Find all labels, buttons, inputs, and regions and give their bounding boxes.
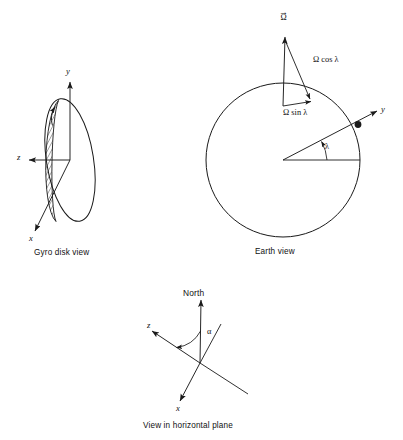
horiz-z-axis-continuation: [200, 363, 248, 394]
hatched-rim: [46, 101, 59, 222]
horizontal-plane-view-caption: View in horizontal plane: [143, 421, 233, 430]
earth-view-caption: Earth view: [255, 247, 295, 256]
omega-vector-label: → Ω: [279, 9, 288, 22]
earth-y-axis: [283, 111, 377, 160]
horiz-z-label: z: [147, 320, 150, 330]
observer-dot: [355, 121, 362, 128]
figure-canvas: [0, 0, 403, 440]
gyro-disk-view-group: [29, 82, 103, 231]
horizontal-plane-view-group: [152, 300, 248, 401]
gyro-y-label: y: [66, 66, 70, 76]
horiz-x-label: x: [176, 403, 180, 413]
earth-y-label: y: [381, 104, 385, 114]
horiz-x-axis: [180, 363, 200, 401]
gyro-x-axis: [35, 160, 70, 231]
earth-view-group: [206, 37, 377, 237]
gyro-z-label: z: [17, 152, 20, 162]
gyro-x-label: x: [29, 233, 33, 243]
alpha-label: α: [207, 327, 211, 336]
physics-figure: y z x Gyro disk view → Ω Ω cos λ Ω sin λ…: [0, 0, 403, 440]
horiz-z-axis: [152, 331, 200, 363]
lambda-label: λ: [325, 142, 329, 151]
omega-vector: [283, 37, 285, 106]
omega-cos-lambda-label: Ω cos λ: [313, 55, 339, 64]
gyro-disk-view-caption: Gyro disk view: [34, 248, 89, 257]
north-label: North: [183, 288, 204, 298]
omega-sin-lambda-label: Ω sin λ: [283, 108, 307, 117]
alpha-angle-arc: [177, 331, 201, 348]
omega-cos-lambda-vector: [285, 40, 310, 99]
omega-sin-lambda-vector: [283, 102, 311, 107]
